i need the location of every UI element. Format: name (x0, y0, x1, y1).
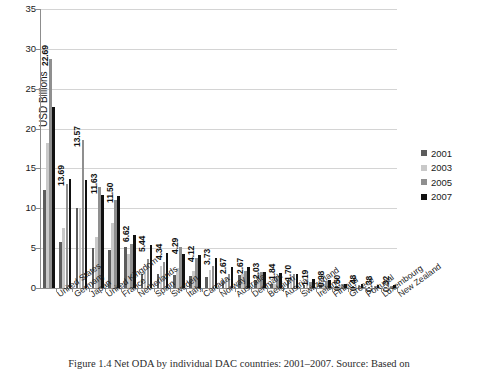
x-tick-label: Netherlands (136, 291, 142, 299)
bar-group-bars (270, 9, 282, 288)
bar-2007 (117, 196, 120, 288)
y-tick-label: 15 (14, 163, 36, 173)
bar-group: 1.19 (303, 9, 315, 288)
x-tick-label: Australia (234, 291, 240, 299)
x-tick-label: Italy (185, 291, 191, 299)
legend-item-2007[interactable]: 2007 (421, 190, 452, 205)
bar-data-label: 11.50 (105, 183, 115, 203)
bar-group: 3.73 (205, 9, 217, 288)
plot-area: USD Billions 22.6913.6913.5711.6311.506.… (40, 9, 397, 288)
bar-group: 5.44 (141, 9, 153, 288)
x-tick-label: Portugal (364, 291, 370, 299)
bar-group: 0.32 (384, 9, 396, 288)
bar-group-bars (92, 9, 104, 288)
bar-data-label: 5.44 (137, 235, 147, 251)
y-tick-mark (36, 208, 40, 209)
bar-group: 13.69 (59, 9, 71, 288)
bar-group-bars (108, 9, 120, 288)
x-tick-label: New Zealand (396, 291, 402, 299)
bar-data-label: 13.57 (72, 126, 82, 147)
bar-group: 11.50 (108, 9, 120, 288)
y-tick-label: 20 (14, 124, 36, 134)
bar-data-label: 6.62 (121, 226, 131, 242)
bar-group: 13.57 (76, 9, 88, 288)
x-tick-label: Sweden (169, 291, 175, 299)
y-axis-line (40, 9, 41, 289)
y-tick-label: 0 (14, 283, 36, 293)
bar-group-bars (124, 9, 136, 288)
bar-2007 (52, 107, 55, 288)
bar-group-bars (368, 9, 380, 288)
figure-caption: Figure 1.4 Net ODA by individual DAC cou… (0, 358, 478, 369)
x-tick-label: France (120, 291, 126, 299)
x-tick-label: Belgium (266, 291, 272, 299)
x-tick-label: Ireland (315, 291, 321, 299)
bar-group: 4.12 (189, 9, 201, 288)
bar-group-bars (384, 9, 396, 288)
bar-data-label: 11.63 (89, 173, 99, 193)
y-tick-mark (36, 89, 40, 90)
bar-group-bars (59, 9, 71, 288)
x-tick-label: Switzerland (299, 291, 305, 299)
y-tick-label: 10 (14, 203, 36, 213)
y-tick-mark (36, 129, 40, 130)
bar-group: 1.70 (287, 9, 299, 288)
bar-group-bars (303, 9, 315, 288)
bar-group-bars (352, 9, 364, 288)
bar-group-bars (222, 9, 234, 288)
bar-group: 0.38 (368, 9, 380, 288)
y-tick-mark (36, 168, 40, 169)
x-tick-label: Norway (218, 291, 224, 299)
bar-group: 0.48 (352, 9, 364, 288)
bar-group-bars (287, 9, 299, 288)
y-tick-mark (36, 248, 40, 249)
x-tick-label: Spain (153, 291, 159, 299)
bar-data-label: 2.67 (235, 258, 245, 274)
bar-group: 22.69 (43, 9, 55, 288)
legend-label: 2001 (431, 148, 452, 159)
legend-swatch-icon (421, 194, 427, 200)
legend-swatch-icon (421, 165, 427, 171)
legend-label: 2007 (431, 191, 452, 202)
y-tick-mark (36, 288, 40, 289)
legend-swatch-icon (421, 179, 427, 185)
y-tick-mark (36, 9, 40, 10)
legend: 2001200320052007 (421, 146, 452, 204)
bar-group-bars (238, 9, 250, 288)
x-tick-label: United States (55, 291, 61, 299)
bar-group: 11.63 (92, 9, 104, 288)
figure-container: USD Billions 22.6913.6913.5711.6311.506.… (0, 0, 478, 372)
bar-group-bars (76, 9, 88, 288)
legend-label: 2005 (431, 177, 452, 188)
bar-group-bars (205, 9, 217, 288)
bar-data-label: 13.69 (56, 165, 66, 186)
y-tick-label: 35 (14, 4, 36, 14)
legend-item-2001[interactable]: 2001 (421, 146, 452, 161)
x-tick-label: Luxembourg (380, 291, 386, 299)
x-tick-label: Austria (282, 291, 288, 299)
bar-group: 0.98 (319, 9, 331, 288)
x-tick-label: Denmark (250, 291, 256, 299)
legend-item-2003[interactable]: 2003 (421, 161, 452, 176)
x-tick-label: Canada (201, 291, 207, 299)
bar-group: 2.03 (254, 9, 266, 288)
bar-group: 4.34 (157, 9, 169, 288)
bar-2007 (69, 179, 72, 288)
bar-group: 2.67 (222, 9, 234, 288)
x-tick-label: Greece (347, 291, 353, 299)
y-tick-label: 5 (14, 243, 36, 253)
bar-group: 2.67 (238, 9, 250, 288)
bar-group-bars (254, 9, 266, 288)
bar-group: 0.50 (335, 9, 347, 288)
legend-item-2005[interactable]: 2005 (421, 175, 452, 190)
x-tick-label: United Kingdom (104, 291, 110, 299)
bar-data-label: 3.73 (202, 249, 212, 265)
x-tick-label: Finland (331, 291, 337, 299)
bar-group-bars (319, 9, 331, 288)
bar-data-label: 4.29 (170, 238, 180, 254)
bar-data-label: 4.12 (186, 246, 196, 262)
bar-group: 4.29 (173, 9, 185, 288)
y-tick-label: 25 (14, 84, 36, 94)
bar-group: 6.62 (124, 9, 136, 288)
bar-group-bars (335, 9, 347, 288)
